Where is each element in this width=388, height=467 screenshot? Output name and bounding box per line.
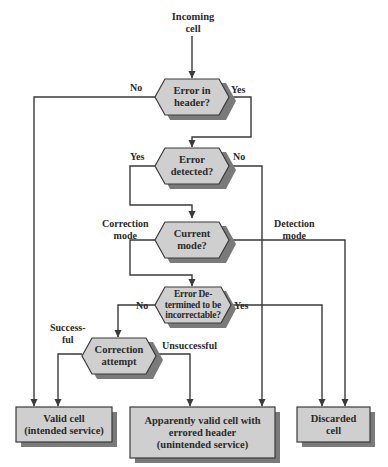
start-line-2: cell bbox=[185, 23, 200, 35]
outcome-discarded-label: Discarded cell bbox=[297, 407, 370, 442]
edge-label-unsuccessful: Unsuccessful bbox=[162, 340, 217, 352]
outcome-text-line: errored header bbox=[169, 427, 237, 439]
edge-detected-no bbox=[228, 166, 262, 406]
outcome-text-line: (intended service) bbox=[24, 425, 104, 437]
edge-label-line: mode bbox=[274, 230, 315, 242]
decision-correction-attempt-label: Correction attempt bbox=[85, 338, 153, 374]
decision-text-line: Error bbox=[179, 154, 205, 166]
decision-text-line: termined to be bbox=[165, 300, 221, 311]
decision-text-line: Error in bbox=[173, 85, 210, 97]
edge-detection-mode bbox=[228, 240, 345, 406]
decision-text-line: incorrectable? bbox=[165, 310, 221, 321]
edge-label-header-no: No bbox=[130, 82, 142, 94]
decision-error-detected-label: Error detected? bbox=[158, 148, 226, 184]
decision-text-line: Current bbox=[174, 228, 211, 240]
edge-label-line: Detection bbox=[274, 218, 315, 230]
outcome-valid-cell-label: Valid cell (intended service) bbox=[16, 407, 112, 442]
edge-label-successful: Success- ful bbox=[50, 322, 86, 345]
edge-label-detected-no: No bbox=[233, 151, 245, 163]
edge-successful bbox=[58, 354, 82, 406]
start-line-1: Incoming bbox=[172, 11, 215, 23]
decision-text-line: attempt bbox=[102, 356, 137, 368]
outcome-text-line: cell bbox=[326, 425, 341, 437]
edge-label-line: ful bbox=[50, 334, 86, 346]
outcome-text-line: (unintended service) bbox=[157, 439, 248, 451]
edge-label-detection-mode: Detection mode bbox=[274, 218, 315, 241]
decision-text-line: Error De- bbox=[174, 289, 212, 300]
outcome-text-line: Apparently valid cell with bbox=[144, 415, 260, 427]
decision-incorrectable-label: Error De- termined to be incorrectable? bbox=[157, 287, 229, 323]
outcome-apparently-valid-label: Apparently valid cell with errored heade… bbox=[130, 407, 275, 458]
decision-current-mode-label: Current mode? bbox=[158, 222, 226, 258]
decision-text-line: Correction bbox=[95, 344, 144, 356]
edge-label-line: Success- bbox=[50, 322, 86, 334]
decision-text-line: mode? bbox=[177, 240, 207, 252]
decision-text-line: detected? bbox=[171, 166, 214, 178]
edge-label-incorrectable-no: No bbox=[136, 300, 148, 312]
edge-label-line: mode bbox=[102, 230, 148, 242]
decision-text-line: header? bbox=[174, 97, 210, 109]
edge-label-correction-mode: Correction mode bbox=[102, 218, 148, 241]
edge-label-header-yes: Yes bbox=[231, 84, 245, 96]
outcome-text-line: Valid cell bbox=[43, 413, 84, 425]
edge-label-incorrectable-yes: Yes bbox=[234, 300, 248, 312]
decision-error-in-header-label: Error in header? bbox=[158, 79, 226, 115]
start-label: Incoming cell bbox=[162, 10, 224, 36]
edge-incorrectable-yes bbox=[230, 305, 322, 406]
edge-label-line: Correction bbox=[102, 218, 148, 230]
outcome-text-line: Discarded bbox=[311, 413, 357, 425]
edge-label-detected-yes: Yes bbox=[130, 151, 144, 163]
